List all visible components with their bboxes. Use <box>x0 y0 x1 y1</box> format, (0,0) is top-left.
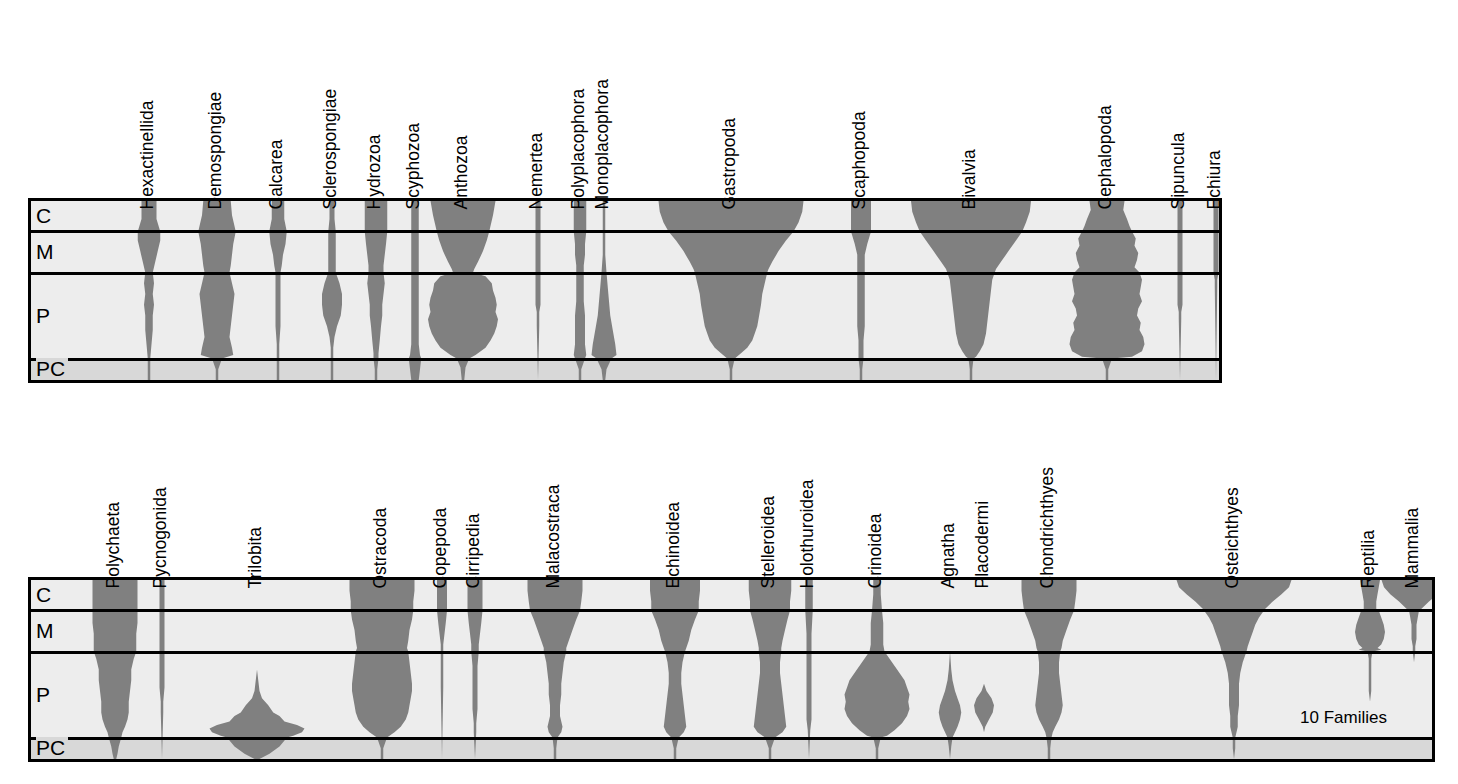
spindle-hydrozoa <box>365 201 388 380</box>
spindle-anthozoa <box>428 201 498 380</box>
spindle-reptilia <box>1355 580 1385 759</box>
era-label-c: C <box>36 205 54 226</box>
era-boundary-pc <box>31 737 1432 740</box>
taxon-label-monoplacophora: Monoplacophora <box>594 79 612 209</box>
era-boundary-m <box>31 609 1432 612</box>
taxon-label-malacostraca: Malacostraca <box>545 484 563 588</box>
spindle-nemertea <box>536 201 541 380</box>
spindle-polyplacophora <box>574 201 587 380</box>
era-label-p: P <box>36 684 53 705</box>
taxon-label-sclerospongiae: Sclerospongiae <box>322 89 340 210</box>
era-label-m: M <box>36 620 57 641</box>
spindle-chondrichthyes <box>1022 580 1077 759</box>
taxon-label-hexactinellida: Hexactinellida <box>139 101 157 210</box>
era-label-pc: PC <box>36 358 68 379</box>
taxon-label-scaphopoda: Scaphopoda <box>851 111 869 209</box>
spindle-cephalopoda <box>1070 201 1145 380</box>
spindle-hexactinellida <box>138 201 161 380</box>
era-label-p: P <box>36 305 53 326</box>
era-boundary-pc <box>31 358 1219 361</box>
taxon-label-polyplacophora: Polyplacophora <box>570 89 588 210</box>
spindle-sclerospongiae <box>322 201 342 380</box>
era-label-m: M <box>36 241 57 262</box>
spindle-diagram-figure: CMPPC CMPPC HexactinellidaDemospongiaeCa… <box>0 0 1458 784</box>
taxon-label-stelleroidea: Stelleroidea <box>760 496 778 588</box>
taxon-label-chondrichthyes: Chondrichthyes <box>1039 467 1057 589</box>
era-boundary-p <box>31 272 1219 275</box>
era-boundary-m <box>31 230 1219 233</box>
spindle-mammalia <box>1382 580 1433 759</box>
scale-note: 10 Families <box>1300 708 1387 728</box>
taxon-label-gastropoda: Gastropoda <box>721 118 739 209</box>
spindle-holothuroidea <box>805 580 813 759</box>
taxon-label-placodermi: Placodermi <box>974 501 992 589</box>
spindle-stelleroidea <box>749 580 792 759</box>
spindle-crinoidea <box>845 580 910 759</box>
taxon-label-cephalopoda: Cephalopoda <box>1097 105 1115 209</box>
taxon-label-scyphozoa: Scyphozoa <box>405 123 423 210</box>
diversity-panel-top: CMPPC <box>28 198 1222 383</box>
spindle-agnatha <box>939 580 962 759</box>
spindle-ostracoda <box>350 580 415 759</box>
spindle-scaphopoda <box>851 201 871 380</box>
spindle-bivalvia <box>911 201 1031 380</box>
taxon-label-pycnogonida: Pycnogonida <box>152 487 170 588</box>
spindle-placodermi <box>974 580 994 759</box>
spindle-layer <box>31 580 1432 759</box>
spindle-monoplacophora <box>592 201 617 380</box>
diversity-panel-bottom: CMPPC <box>28 577 1435 762</box>
taxon-label-holothuroidea: Holothuroidea <box>799 480 817 589</box>
spindle-layer <box>31 201 1219 380</box>
spindle-sipuncula <box>1178 201 1183 380</box>
spindle-demospongiae <box>198 201 236 380</box>
spindle-calcarea <box>269 201 287 380</box>
spindle-copepoda <box>437 580 447 759</box>
era-label-pc: PC <box>36 737 68 758</box>
era-label-c: C <box>36 584 54 605</box>
taxon-label-polychaeta: Polychaeta <box>105 502 123 589</box>
taxon-label-echinoidea: Echinoidea <box>665 502 683 589</box>
taxon-label-osteichthyes: Osteichthyes <box>1224 487 1242 588</box>
spindle-pycnogonida <box>160 580 165 759</box>
spindle-trilobita <box>210 580 305 759</box>
era-boundary-p <box>31 651 1432 654</box>
spindle-scyphozoa <box>409 201 422 380</box>
spindle-gastropoda <box>659 201 804 380</box>
spindle-osteichthyes <box>1177 580 1292 759</box>
spindle-echinoidea <box>650 580 700 759</box>
spindle-malacostraca <box>528 580 583 759</box>
spindle-echiura <box>1214 201 1219 380</box>
spindle-polychaeta <box>93 580 138 759</box>
spindle-cirripedia <box>468 580 483 759</box>
taxon-label-demospongiae: Demospongiae <box>207 92 225 210</box>
